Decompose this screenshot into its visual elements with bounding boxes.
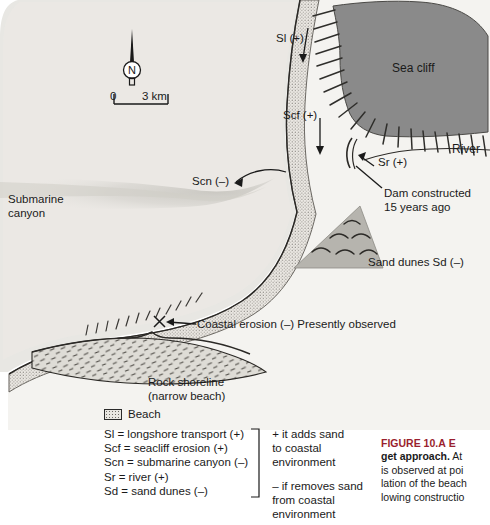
label-submarine-canyon: Submarine canyon bbox=[8, 192, 64, 220]
caption-figure-number: FIGURE 10.A bbox=[381, 437, 446, 449]
legend-key-sl: Sl = longshore transport (+) bbox=[104, 427, 248, 441]
legend-note-spacer bbox=[272, 470, 386, 479]
label-submarine-canyon-arrow: Scn (–) bbox=[192, 175, 229, 189]
label-rock-line1: Rock shoreline bbox=[148, 375, 225, 389]
legend-body: Sl = longshore transport (+) Scf = seacl… bbox=[104, 427, 386, 521]
beach-swatch-icon bbox=[104, 409, 122, 420]
coastal-map: N 0 3 km Sl (+) Scf (+) Scn (–) Sr (+) S… bbox=[0, 0, 490, 430]
caption-title-head: E bbox=[449, 437, 456, 449]
caption-line-5: lowing constructio bbox=[381, 491, 490, 504]
legend-note-minus-line2: from coastal environment bbox=[272, 493, 386, 521]
caption-line-1: FIGURE 10.A E bbox=[381, 437, 490, 450]
legend-beach-entry: Beach bbox=[104, 408, 386, 420]
legend-note-plus-line2: to coastal environment bbox=[272, 441, 386, 469]
label-dam: Dam constructed 15 years ago bbox=[384, 186, 471, 214]
figure-caption: FIGURE 10.A E get approach. At is observ… bbox=[381, 437, 490, 517]
label-rock-line2: (narrow beach) bbox=[148, 389, 225, 403]
legend: Beach Sl = longshore transport (+) Scf =… bbox=[86, 408, 386, 521]
compass-north-icon: N bbox=[110, 28, 154, 90]
caption-title-bold: get approach. bbox=[381, 450, 450, 462]
label-sea-cliff: Sea cliff bbox=[392, 62, 434, 76]
caption-line-2: get approach. At bbox=[381, 450, 490, 463]
legend-key-scf: Scf = seacliff erosion (+) bbox=[104, 441, 248, 455]
legend-brace bbox=[250, 427, 263, 521]
legend-key-list: Sl = longshore transport (+) Scf = seacl… bbox=[104, 427, 248, 521]
label-dam-line2: 15 years ago bbox=[384, 200, 471, 214]
figure-root: N 0 3 km Sl (+) Scf (+) Scn (–) Sr (+) S… bbox=[0, 0, 490, 525]
brace-icon bbox=[250, 427, 263, 499]
label-seacliff-erosion: Scf (+) bbox=[283, 109, 317, 123]
label-river-sediment: Sr (+) bbox=[378, 156, 407, 170]
label-rock-shoreline: Rock shoreline (narrow beach) bbox=[148, 375, 225, 403]
label-submarine-line2: canyon bbox=[8, 206, 64, 220]
label-submarine-line1: Submarine bbox=[8, 192, 64, 206]
scale-bar-icon bbox=[108, 92, 180, 108]
caption-line-4: lation of the beach bbox=[381, 477, 490, 490]
legend-key-sr: Sr = river (+) bbox=[104, 470, 248, 484]
label-longshore-transport: Sl (+) bbox=[276, 32, 304, 46]
caption-line2-rest: At bbox=[452, 450, 462, 462]
legend-note-minus-line1: – if removes sand bbox=[272, 479, 386, 493]
legend-notes: + it adds sand to coastal environment – … bbox=[272, 427, 386, 521]
compass-north-letter: N bbox=[128, 64, 136, 76]
legend-beach-label: Beach bbox=[128, 408, 161, 420]
legend-note-plus-line1: + it adds sand bbox=[272, 427, 386, 441]
legend-key-scn: Scn = submarine canyon (–) bbox=[104, 455, 248, 469]
label-river-feature: River bbox=[452, 143, 480, 157]
label-dam-line1: Dam constructed bbox=[384, 186, 471, 200]
legend-key-sd: Sd = sand dunes (–) bbox=[104, 484, 248, 498]
caption-line-3: is observed at poi bbox=[381, 464, 490, 477]
label-sand-dunes: Sand dunes Sd (–) bbox=[368, 256, 464, 270]
label-coastal-erosion: Coastal erosion (–) Presently observed bbox=[197, 318, 396, 332]
